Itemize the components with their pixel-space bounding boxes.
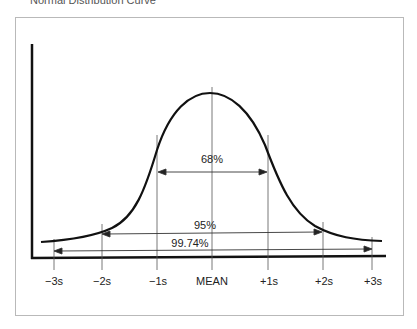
tick-minus-3s: −3s [45,275,63,287]
label-95: 95% [194,219,216,231]
tick-minus-1s: −1s [149,275,167,287]
tick-mean: MEAN [196,275,228,287]
label-9974: 99.74% [171,237,208,249]
x-axis [31,256,386,258]
tick-plus-2s: +2s [315,275,333,287]
sigma-lines [54,87,372,270]
label-68: 68% [201,153,223,165]
tick-minus-2s: −2s [93,275,111,287]
tick-plus-3s: +3s [364,275,382,287]
tick-plus-1s: +1s [260,275,278,287]
